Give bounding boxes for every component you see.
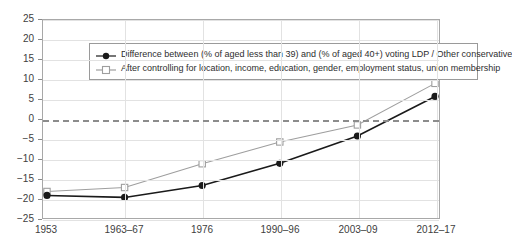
y-axis-tick-label: 0 — [0, 114, 34, 124]
y-axis-tick-label: 15 — [0, 54, 34, 64]
x-axis: 19531963–6719761990–962003–092012–17 — [42, 224, 440, 240]
y-axis-tick-label: 20 — [0, 34, 34, 44]
x-gridline — [437, 20, 438, 218]
data-point-marker — [43, 192, 50, 199]
x-axis-tick-label: 1976 — [191, 224, 213, 236]
y-gridline — [43, 40, 439, 41]
x-axis-tick-label: 1963–67 — [105, 224, 144, 236]
y-axis-tick-label: 25 — [0, 14, 34, 24]
x-gridline — [281, 20, 282, 218]
y-gridline — [43, 220, 439, 221]
plot-area: Difference between (% of aged less than … — [42, 19, 440, 219]
legend-item-controlled: After controlling for location, income, … — [94, 61, 473, 75]
y-axis-tick-label: 10 — [0, 74, 34, 84]
y-gridline — [43, 60, 439, 61]
y-gridline — [43, 20, 439, 21]
y-gridline — [43, 80, 439, 81]
series-line — [47, 96, 435, 197]
x-axis-tick-label: 2012–17 — [417, 224, 456, 236]
y-axis-tick-label: −15 — [0, 174, 34, 184]
x-gridline — [125, 20, 126, 218]
y-gridline — [43, 180, 439, 181]
y-axis-tick-label: −20 — [0, 194, 34, 204]
y-axis-tick-label: −25 — [0, 214, 34, 224]
y-axis-tick-label: 5 — [0, 94, 34, 104]
y-axis-tick-label: −5 — [0, 134, 34, 144]
x-axis-tick-label: 1953 — [35, 224, 57, 236]
y-axis: 2520151050−5−10−15−20−25 — [0, 19, 38, 219]
x-axis-tick-label: 1990–96 — [261, 224, 300, 236]
legend-label-controlled: After controlling for location, income, … — [118, 62, 500, 74]
zero-reference-line — [43, 120, 439, 122]
open-square-marker-icon — [94, 62, 118, 74]
y-gridline — [43, 140, 439, 141]
legend-label-difference: Difference between (% of aged less than … — [118, 48, 512, 60]
x-gridline — [359, 20, 360, 218]
x-axis-tick-label: 2003–09 — [339, 224, 378, 236]
y-gridline — [43, 200, 439, 201]
legend-item-difference: Difference between (% of aged less than … — [94, 47, 473, 61]
y-gridline — [43, 100, 439, 101]
chart-legend: Difference between (% of aged less than … — [89, 43, 478, 80]
filled-circle-marker-icon — [94, 48, 118, 60]
x-gridline — [203, 20, 204, 218]
y-axis-tick-mark — [38, 219, 42, 220]
y-axis-tick-label: −10 — [0, 154, 34, 164]
y-gridline — [43, 160, 439, 161]
